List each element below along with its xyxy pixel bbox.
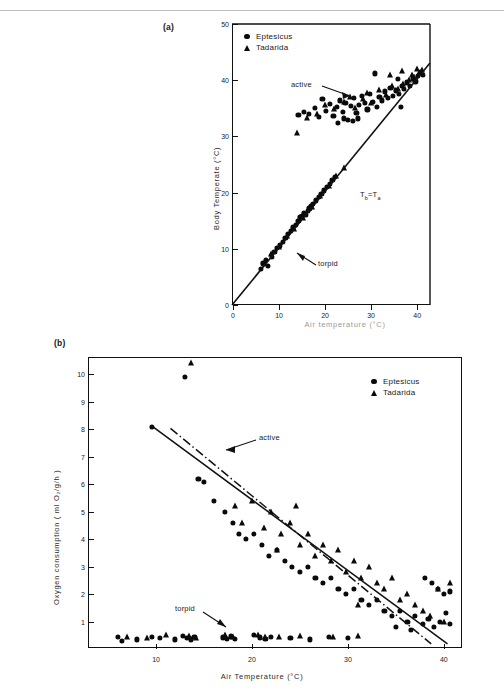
panel-b-overlay: [0, 330, 504, 692]
panel-b: (b) 1020304012345678910 Eptesicus Tadari…: [0, 330, 504, 692]
legend-label-tadarida: Tadarida: [383, 388, 415, 397]
panel-a-y-axis-title: Body Temperate (°C): [212, 147, 221, 230]
identity-line: [232, 63, 430, 305]
legend-item-eptesicus: Eptesicus: [370, 376, 419, 387]
panel-a-x-axis-title: Air temperature (°C): [304, 320, 385, 329]
panel-b-active-annotation: active: [259, 433, 280, 442]
panel-a-identity-annotation: Tb=Ta: [360, 190, 381, 201]
circle-marker: [370, 379, 378, 384]
triangle-marker: [243, 45, 251, 51]
panel-b-y-axis-title: Oxygen consumption ( ml O₂/g/h ): [52, 470, 61, 605]
panel-a: (a) 01020304001020304050 Eptesicus T: [0, 0, 504, 340]
legend-item-tadarida: Tadarida: [243, 42, 292, 53]
figure-page: (a) 01020304001020304050 Eptesicus T: [0, 0, 504, 692]
panel-a-torpid-annotation: torpid: [318, 259, 338, 268]
circle-marker: [243, 34, 251, 39]
legend-label-eptesicus: Eptesicus: [383, 377, 419, 386]
panel-b-x-axis-title: Air Temperature (°C): [221, 672, 304, 681]
tadarida-regression-line: [171, 428, 432, 644]
panel-a-active-annotation: active: [291, 80, 312, 89]
legend-item-tadarida: Tadarida: [370, 387, 419, 398]
legend-label-eptesicus: Eptesicus: [256, 32, 292, 41]
triangle-marker: [370, 390, 378, 396]
ta-subscript: a: [377, 195, 380, 201]
legend-item-eptesicus: Eptesicus: [243, 31, 292, 42]
panel-b-legend: Eptesicus Tadarida: [370, 376, 419, 398]
panel-a-legend: Eptesicus Tadarida: [243, 31, 292, 53]
panel-b-torpid-annotation: torpid: [175, 604, 195, 613]
legend-label-tadarida: Tadarida: [256, 43, 288, 52]
